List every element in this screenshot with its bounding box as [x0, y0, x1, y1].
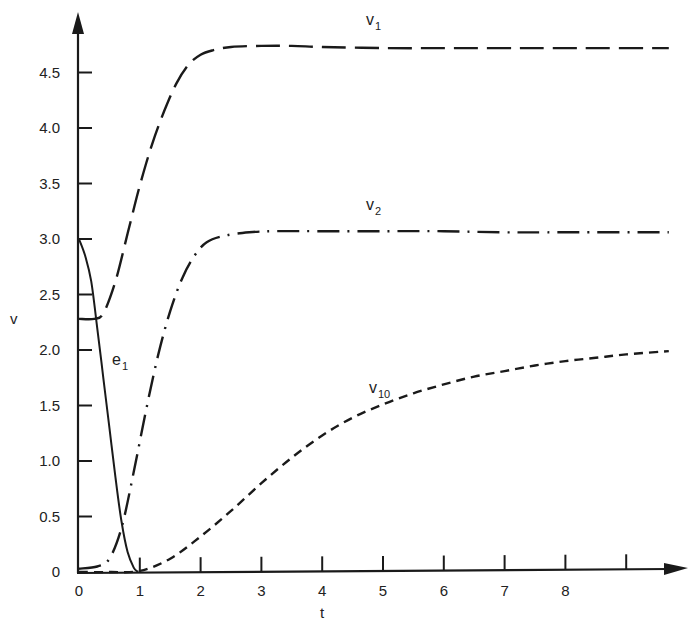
- series-v2-line: [79, 231, 669, 569]
- x-tick-label: 6: [440, 582, 448, 599]
- y-tick-label: 4.0: [39, 119, 60, 136]
- y-axis-title: v: [10, 310, 18, 327]
- x-tick-label: 3: [257, 582, 265, 599]
- y-tick-label: 4.5: [39, 64, 60, 81]
- x-axis: [77, 569, 670, 573]
- axes: [72, 12, 688, 575]
- y-axis-arrow-icon: [72, 12, 84, 34]
- label-v1-sub: 1: [375, 20, 381, 32]
- x-axis-title: t: [320, 604, 325, 621]
- label-v1-main: v: [366, 11, 374, 28]
- x-tick-label: 5: [379, 582, 387, 599]
- label-e1-main: e: [112, 351, 121, 368]
- label-v1: v1: [366, 11, 381, 32]
- y-tick-label: 1.5: [39, 397, 60, 414]
- x-tick-label: 1: [136, 582, 144, 599]
- label-e1: e1: [112, 351, 128, 372]
- y-tick-label: 2.5: [39, 286, 60, 303]
- y-tick-label: 3.5: [39, 175, 60, 192]
- x-tick-labels: 012345678: [75, 582, 570, 599]
- label-v2-sub: 2: [375, 205, 381, 217]
- series-v1-line: [79, 46, 669, 320]
- x-tick-label: 4: [318, 582, 326, 599]
- x-axis-arrow-icon: [664, 563, 688, 575]
- label-v10-sub: 10: [378, 388, 390, 400]
- x-tick-label: 2: [196, 582, 204, 599]
- y-tick-label: 3.0: [39, 230, 60, 247]
- label-v2: v2: [366, 196, 381, 217]
- label-v2-main: v: [366, 196, 374, 213]
- series-group: [79, 46, 669, 572]
- x-tick-label: 0: [75, 582, 83, 599]
- label-v10: v10: [369, 379, 390, 400]
- y-tick-label: 2.0: [39, 341, 60, 358]
- y-tick-labels: 00.51.01.52.02.53.03.54.04.5: [39, 64, 60, 581]
- x-tick-label: 8: [561, 582, 569, 599]
- label-v10-main: v: [369, 379, 377, 396]
- y-tick-label: 0: [52, 563, 60, 580]
- x-tick-label: 7: [500, 582, 508, 599]
- chart-canvas: 00.51.01.52.02.53.03.54.04.5 012345678 v…: [0, 0, 690, 634]
- label-e1-sub: 1: [122, 360, 128, 372]
- y-ticks: [78, 73, 92, 517]
- y-tick-label: 0.5: [39, 508, 60, 525]
- y-tick-label: 1.0: [39, 452, 60, 469]
